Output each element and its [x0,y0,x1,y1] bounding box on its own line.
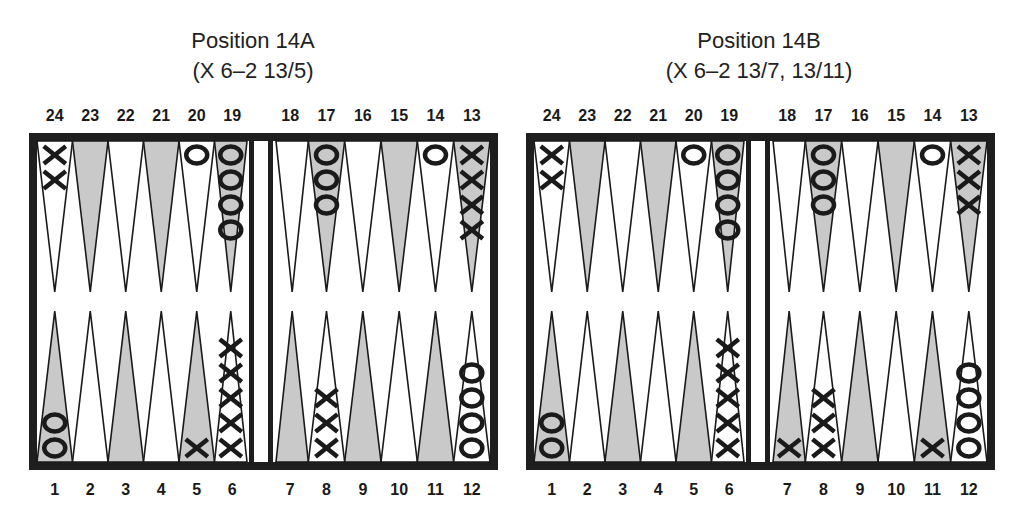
board-left-half [37,141,250,462]
bar-edge-right [268,141,273,462]
point-number: 1 [40,481,70,499]
bar-edge-left [249,141,254,462]
bar-edge-left [746,141,751,462]
point-number: 5 [182,481,212,499]
bottom-point-numbers: 123456789101112 [0,481,506,501]
point-number: 10 [881,481,911,499]
board-right-half [769,141,987,462]
backgammon-board [506,0,1012,519]
point-number: 11 [918,481,948,499]
point-number: 4 [146,481,176,499]
position-14a-panel: Position 14A (X 6–2 13/5) 24232221201918… [0,0,506,519]
point-number: 4 [643,481,673,499]
point-number: 12 [954,481,984,499]
board-right-half [272,141,490,462]
point-number: 2 [572,481,602,499]
position-14b-panel: Position 14B (X 6–2 13/7, 13/11) 2423222… [506,0,1012,519]
point-number: 1 [537,481,567,499]
point-number: 11 [421,481,451,499]
bottom-point-numbers: 123456789101112 [506,481,1012,501]
board-left-half [534,141,747,462]
point-number: 9 [845,481,875,499]
point-number: 7 [772,481,802,499]
point-number: 2 [75,481,105,499]
point-number: 9 [348,481,378,499]
point-number: 3 [111,481,141,499]
point-number: 12 [457,481,487,499]
point-number: 6 [714,481,744,499]
point-number: 8 [809,481,839,499]
point-number: 3 [608,481,638,499]
point-number: 5 [679,481,709,499]
point-number: 7 [275,481,305,499]
point-number: 10 [384,481,414,499]
point-number: 6 [217,481,247,499]
point-number: 8 [312,481,342,499]
backgammon-board [0,0,506,519]
bar-edge-right [765,141,770,462]
